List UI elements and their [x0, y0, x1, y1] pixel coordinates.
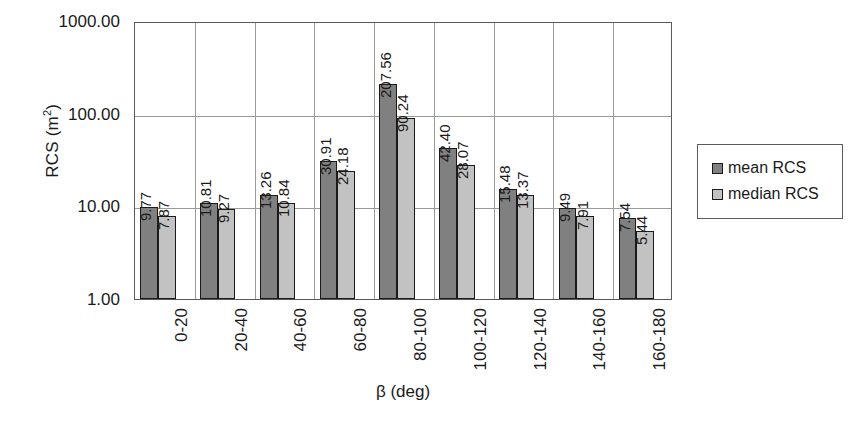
x-axis-tick-label: 40-60 — [291, 308, 311, 351]
bar — [457, 165, 475, 299]
y-axis-tick-label: 1.00 — [87, 290, 120, 310]
bar — [337, 171, 355, 299]
bar-value-label: 9.49 — [556, 193, 573, 222]
x-axis-tick-label: 20-40 — [232, 308, 252, 351]
bar-value-label: 9.77 — [137, 192, 154, 221]
x-axis-tick-label: 140-160 — [590, 308, 610, 370]
bar-value-label: 90.24 — [394, 94, 411, 132]
x-axis-tick-label: 100-120 — [471, 308, 491, 370]
bar-value-label: 9.27 — [215, 194, 232, 223]
x-axis-tick-label: 0-20 — [172, 308, 192, 342]
bar-value-label: 7.54 — [616, 202, 633, 231]
bar-group: 13.2610.84 — [255, 23, 315, 299]
bar-value-label: 13.26 — [257, 171, 274, 209]
bar-value-label: 10.84 — [275, 180, 292, 218]
y-axis-tick-labels: 1.0010.00100.001000.00 — [0, 0, 128, 428]
legend-item-label: median RCS — [728, 185, 819, 203]
bar-group: 10.819.27 — [195, 23, 255, 299]
y-axis-tick-label: 100.00 — [68, 105, 120, 125]
bar-value-label: 10.81 — [197, 180, 214, 218]
bar-value-label: 28.07 — [454, 141, 471, 179]
bar — [278, 203, 296, 299]
bar — [517, 195, 535, 299]
bar-value-label: 7.87 — [155, 201, 172, 230]
bar — [397, 118, 415, 299]
bar-group: 9.497.91 — [553, 23, 613, 299]
bar-group: 42.4028.07 — [434, 23, 494, 299]
y-axis-tick-label: 10.00 — [77, 197, 120, 217]
bar-value-label: 30.91 — [317, 137, 334, 175]
legend-item[interactable]: mean RCS — [698, 155, 842, 181]
legend-item-label: mean RCS — [728, 159, 806, 177]
legend-item[interactable]: median RCS — [698, 181, 842, 207]
bar-value-label: 42.40 — [436, 125, 453, 163]
x-axis-tick-label: 160-180 — [650, 308, 670, 370]
bar-value-label: 13.37 — [514, 171, 531, 209]
x-axis-tick-label: 120-140 — [531, 308, 551, 370]
x-axis-tick-labels: 0-2020-4040-6060-8080-100100-120120-1401… — [134, 300, 672, 395]
bar-group: 30.9124.18 — [314, 23, 374, 299]
bar-value-label: 5.44 — [633, 216, 650, 245]
chart-figure: RCS (m2) 1.0010.00100.001000.00 9.777.87… — [0, 0, 860, 428]
bar-group: 15.4813.37 — [494, 23, 554, 299]
bar-group: 9.777.87 — [135, 23, 195, 299]
legend-swatch-icon — [712, 163, 723, 174]
bar-group: 207.5690.24 — [374, 23, 434, 299]
legend-swatch-icon — [712, 189, 723, 200]
plot-area: 9.777.8710.819.2713.2610.8430.9124.18207… — [134, 22, 672, 300]
bar-value-label: 7.91 — [574, 201, 591, 230]
y-axis-tick-label: 1000.00 — [59, 12, 120, 32]
x-axis-tick-label: 60-80 — [351, 308, 371, 351]
chart-legend: mean RCSmedian RCS — [697, 144, 843, 219]
x-axis-tick-label: 80-100 — [411, 308, 431, 361]
bar-group: 7.545.44 — [613, 23, 673, 299]
bar-value-label: 15.48 — [496, 165, 513, 203]
bar-value-label: 24.18 — [334, 147, 351, 185]
x-axis-title: β (deg) — [134, 382, 672, 402]
bar-value-label: 207.56 — [377, 52, 394, 98]
